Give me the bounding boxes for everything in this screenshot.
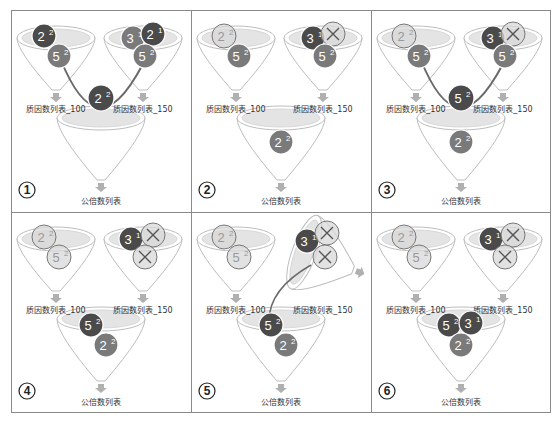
down-arrow-icon: [455, 183, 467, 192]
prime-factor-ball: 52: [227, 245, 251, 269]
svg-text:3: 3: [124, 232, 131, 247]
step-number-badge: 2: [199, 182, 215, 198]
prime-factor-ball: 22: [212, 225, 236, 249]
prime-factor-ball: 52: [407, 245, 431, 269]
label-list-100: 质因数列表_100: [26, 104, 85, 114]
down-arrow-icon: [230, 93, 242, 102]
svg-text:5: 5: [52, 49, 59, 64]
svg-text:3: 3: [306, 31, 313, 46]
prime-factor-ball: 52: [227, 44, 251, 68]
svg-text:1: 1: [476, 315, 481, 324]
svg-text:5: 5: [412, 250, 419, 265]
svg-text:2: 2: [454, 135, 461, 150]
down-arrow-icon: [275, 183, 287, 192]
step-panel-1: 质因数列表_100质因数列表_150公倍数列表1225231215222: [11, 10, 191, 212]
prime-factor-ball: 22: [269, 130, 293, 154]
svg-text:2: 2: [424, 48, 429, 57]
removed-factor-ball: [313, 245, 337, 269]
prime-factor-ball: 52: [47, 245, 71, 269]
svg-text:2: 2: [150, 48, 155, 57]
svg-text:3: 3: [464, 316, 471, 331]
svg-text:2: 2: [217, 29, 224, 44]
svg-text:2: 2: [409, 28, 414, 37]
removed-factor-ball: [133, 245, 157, 269]
down-arrow-icon: [275, 384, 287, 393]
funnel-common-multiple: [57, 106, 145, 192]
svg-text:5: 5: [232, 49, 239, 64]
label-common-multiple: 公倍数列表: [441, 397, 481, 407]
label-common-multiple: 公倍数列表: [261, 397, 301, 407]
label-list-100: 质因数列表_100: [206, 104, 265, 114]
svg-text:3: 3: [126, 31, 133, 46]
label-list-150: 质因数列表_150: [113, 305, 172, 315]
step-panel-2: 质因数列表_100质因数列表_150公倍数列表22252315222: [191, 10, 371, 212]
label-common-multiple: 公倍数列表: [441, 196, 481, 206]
prime-factor-ball: 22: [392, 24, 416, 48]
svg-text:5: 5: [138, 49, 145, 64]
svg-text:2: 2: [244, 48, 249, 57]
svg-text:3: 3: [486, 31, 493, 46]
svg-text:3: 3: [300, 234, 307, 249]
svg-text:2: 2: [37, 230, 44, 245]
svg-text:2: 2: [397, 29, 404, 44]
removed-factor-ball: [501, 223, 525, 247]
svg-text:2: 2: [217, 230, 224, 245]
svg-text:2: 2: [274, 135, 281, 150]
step-number-badge: 6: [379, 383, 395, 399]
svg-text:5: 5: [204, 384, 211, 398]
svg-text:3: 3: [384, 183, 391, 197]
prime-factor-ball: 22: [94, 333, 118, 357]
svg-text:3: 3: [484, 232, 491, 247]
svg-text:5: 5: [498, 49, 505, 64]
svg-text:2: 2: [466, 90, 471, 99]
prime-factor-ball: 22: [274, 333, 298, 357]
step-panel-4: 质因数列表_100质因数列表_150公倍数列表42252315222: [11, 211, 191, 413]
svg-text:4: 4: [24, 384, 31, 398]
step-panel-5: 质因数列表_100质因数列表_150公倍数列表52252315222: [191, 211, 371, 413]
svg-text:2: 2: [330, 48, 335, 57]
label-list-100: 质因数列表_100: [26, 305, 85, 315]
svg-text:2: 2: [49, 28, 54, 37]
svg-text:2: 2: [64, 249, 69, 258]
prime-factor-ball: 52: [133, 44, 157, 68]
svg-text:2: 2: [49, 229, 54, 238]
prime-factor-ball: 21: [141, 22, 165, 46]
down-arrow-icon: [50, 93, 62, 102]
svg-text:5: 5: [52, 250, 59, 265]
svg-text:2: 2: [204, 183, 211, 197]
svg-text:1: 1: [136, 231, 141, 240]
svg-text:1: 1: [158, 26, 163, 35]
svg-text:1: 1: [496, 231, 501, 240]
down-arrow-icon: [497, 93, 509, 102]
svg-text:2: 2: [397, 230, 404, 245]
svg-text:5: 5: [454, 91, 461, 106]
svg-text:5: 5: [264, 318, 271, 333]
svg-text:1: 1: [24, 183, 31, 197]
prime-factor-ball: 22: [392, 225, 416, 249]
svg-text:5: 5: [84, 318, 91, 333]
svg-text:2: 2: [146, 27, 153, 42]
removed-factor-ball: [315, 221, 339, 245]
prime-factor-ball: 52: [448, 85, 474, 111]
svg-text:2: 2: [37, 29, 44, 44]
label-list-100: 质因数列表_100: [386, 305, 445, 315]
prime-factor-ball: 31: [459, 311, 483, 335]
label-list-150: 质因数列表_150: [293, 305, 352, 315]
prime-factor-ball: 52: [313, 44, 337, 68]
svg-text:2: 2: [466, 134, 471, 143]
svg-text:5: 5: [318, 49, 325, 64]
svg-text:2: 2: [94, 91, 101, 106]
down-arrow-icon: [497, 294, 509, 303]
svg-text:2: 2: [99, 338, 106, 353]
svg-text:5: 5: [232, 250, 239, 265]
step-panel-6: 质因数列表_100质因数列表_150公倍数列表6225231523122: [371, 211, 551, 413]
prime-factor-ball: 52: [407, 44, 431, 68]
svg-text:5: 5: [412, 49, 419, 64]
prime-factor-ball: 52: [259, 313, 283, 337]
prime-factor-ball: 22: [449, 130, 473, 154]
svg-text:2: 2: [409, 229, 414, 238]
label-common-multiple: 公倍数列表: [81, 196, 121, 206]
down-arrow-icon: [410, 93, 422, 102]
svg-text:2: 2: [106, 90, 111, 99]
prime-factor-ball: 22: [32, 24, 56, 48]
